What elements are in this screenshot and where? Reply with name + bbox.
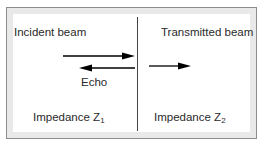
impedance-z1-subscript: 1 [100, 116, 104, 125]
transmitted-arrow-icon [149, 61, 191, 71]
diagram-interior: Incident beam Transmitted beam Echo Impe… [13, 14, 250, 132]
diagram-frame: Incident beam Transmitted beam Echo Impe… [6, 7, 257, 139]
impedance-z2-subscript: 2 [221, 116, 225, 125]
impedance-z2-label: Impedance Z2 [154, 111, 226, 125]
impedance-z1-text: Impedance Z [33, 111, 100, 123]
incident-arrow-icon [63, 51, 135, 61]
impedance-z2-text: Impedance Z [154, 111, 221, 123]
transmitted-beam-label: Transmitted beam [161, 26, 253, 38]
interface-boundary-line [137, 17, 138, 131]
incident-beam-label: Incident beam [14, 26, 86, 38]
echo-label: Echo [81, 76, 107, 88]
echo-arrow-icon [79, 63, 135, 73]
impedance-z1-label: Impedance Z1 [33, 111, 105, 125]
